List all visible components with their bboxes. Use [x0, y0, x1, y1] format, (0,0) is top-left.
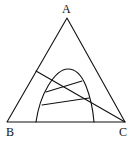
tie-line-1 [46, 81, 82, 92]
vertex-label-b: B [6, 125, 14, 139]
vertex-label-c: C [119, 125, 127, 139]
ternary-triangle [7, 18, 125, 122]
binodal-curve [36, 69, 94, 122]
ternary-diagram: A B C [0, 0, 135, 141]
operating-line-to-c [36, 71, 125, 122]
vertex-label-a: A [62, 2, 71, 16]
tie-line-2 [42, 98, 89, 105]
